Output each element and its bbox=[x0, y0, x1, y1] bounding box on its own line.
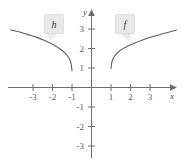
callout-h: h bbox=[45, 15, 64, 42]
x-tick-label--1: -1 bbox=[68, 92, 76, 102]
callout-f-tail-icon bbox=[120, 33, 131, 42]
x-axis-arrow-icon bbox=[170, 84, 177, 91]
y-tick-label-3: 3 bbox=[80, 24, 85, 34]
y-axis-title: y bbox=[82, 7, 87, 17]
y-tick-label--3: -3 bbox=[77, 141, 85, 151]
callout-h-label: h bbox=[52, 19, 57, 30]
x-axis-title: x bbox=[169, 91, 174, 101]
x-tick-label-2: 2 bbox=[128, 92, 133, 102]
axis-group bbox=[8, 9, 177, 158]
y-tick-label-2: 2 bbox=[80, 44, 85, 54]
callout-h-tail-icon bbox=[47, 33, 58, 41]
x-tick-label-3: 3 bbox=[148, 92, 153, 102]
x-tick-label-1: 1 bbox=[109, 92, 114, 102]
y-tick-label-1: 1 bbox=[80, 63, 85, 73]
curve-h bbox=[11, 30, 72, 71]
coordinate-plane: -3 -2 -1 1 2 3 3 2 1 -1 -2 -3 x y h bbox=[0, 0, 182, 166]
graph-figure: -3 -2 -1 1 2 3 3 2 1 -1 -2 -3 x y h bbox=[0, 0, 182, 166]
y-axis-arrow-icon bbox=[88, 9, 95, 16]
x-tick-label--3: -3 bbox=[29, 92, 37, 102]
y-tick-label--2: -2 bbox=[77, 122, 85, 132]
x-tick-label--2: -2 bbox=[49, 92, 57, 102]
curve-f bbox=[111, 30, 176, 68]
y-tick-label--1: -1 bbox=[77, 102, 85, 112]
callout-f: f bbox=[116, 15, 135, 43]
